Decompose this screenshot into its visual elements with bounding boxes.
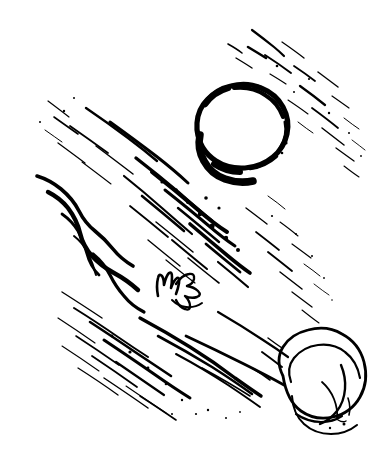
ink-drawing <box>0 0 390 459</box>
artwork-canvas <box>0 0 390 459</box>
